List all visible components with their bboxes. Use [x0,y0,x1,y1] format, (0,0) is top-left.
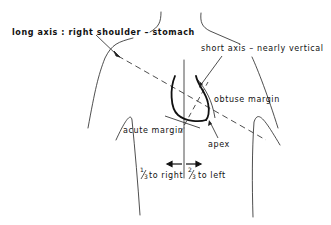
long-axis-arrowhead [114,51,120,57]
short-axis-label: short axis – nearly vertical [201,44,324,53]
to-left-label: to left [198,171,226,180]
arrow-to-left-head [196,162,201,167]
long-axis-label: long axis : right shoulder – stomach [12,28,195,37]
body-left-outline [88,38,133,128]
apex-label: apex [208,140,230,149]
obtuse-margin-label: obtuse margin [214,95,280,104]
short-axis-pointer [200,56,222,86]
to-right-fraction-denominator: 3 [144,173,148,180]
to-left-fraction-denominator: 3 [192,173,196,180]
to-right-fraction-numerator: 1 [140,166,144,173]
acute-margin-label: acute margin [123,126,183,135]
arrow-to-right-head [167,162,172,167]
torso-right-outline [252,117,280,217]
to-right-label: to right [149,171,183,180]
neck-right-outline [201,13,240,44]
heart-axes-diagram: long axis : right shoulder – stomach sho… [0,0,331,225]
to-left-fraction-numerator: 2 [188,166,192,173]
body-right-outline [252,57,278,128]
